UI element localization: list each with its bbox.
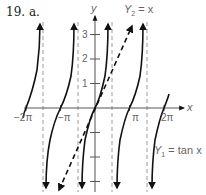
legend-y1-eq: = tan x	[165, 144, 201, 156]
legend-y1: Y1 = tan x	[154, 145, 202, 158]
x-tick-label-2pi: 2π	[161, 113, 173, 123]
y-tick-label-2: 2	[82, 54, 88, 64]
legend-y2-eq: = x	[135, 3, 153, 15]
plot-area	[0, 0, 206, 195]
legend-y2: Y2 = x	[124, 4, 153, 17]
x-axis-label: x	[187, 102, 193, 113]
graph-figure: 19. a. y x −2π −π π 2π 1 2 3 Y2 = x Y1 =…	[0, 0, 206, 195]
problem-label: 19. a.	[6, 6, 40, 18]
problem-number: 19.	[6, 5, 25, 19]
x-tick-label-pi: π	[132, 113, 139, 123]
problem-part: a.	[29, 5, 40, 19]
y-tick-label-1: 1	[82, 79, 88, 89]
y-axis	[90, 16, 100, 192]
x-tick-label-neg-pi: −π	[58, 113, 71, 123]
x-axis	[24, 105, 184, 111]
y-axis-label: y	[91, 3, 97, 14]
y-tick-label-3: 3	[82, 30, 88, 40]
x-tick-label-neg-2pi: −2π	[14, 113, 32, 123]
